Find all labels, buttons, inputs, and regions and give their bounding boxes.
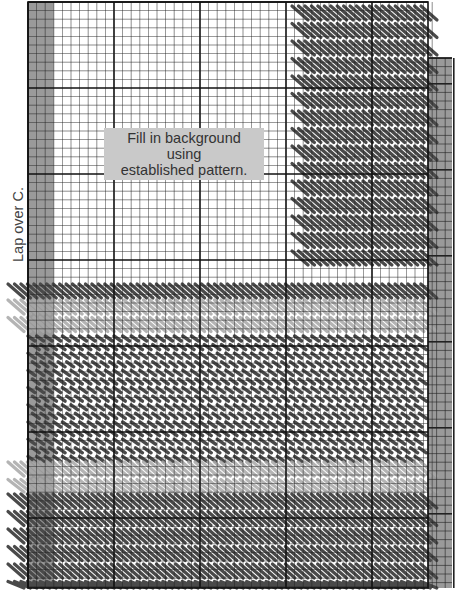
stitch-chart — [0, 0, 462, 590]
instruction-line-1: Fill in background using — [109, 130, 259, 162]
instruction-line-2: established pattern. — [109, 162, 259, 178]
instruction-label: Fill in background using established pat… — [104, 128, 264, 180]
lap-over-label: Lap over C. — [10, 187, 26, 262]
